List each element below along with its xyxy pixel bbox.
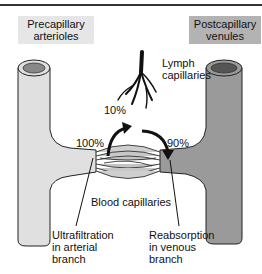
ultrafiltration-label: Ultrafiltration in arterial branch (52, 229, 114, 265)
capillary-diagram (0, 0, 262, 274)
blood-capillary-bed (96, 145, 160, 179)
outflow-percent-label: 90% (167, 137, 189, 149)
arteriole-vessel (18, 60, 96, 246)
ultrafiltration-line1: Ultrafiltration (52, 229, 114, 241)
reabsorption-line3: branch (149, 253, 214, 265)
ultrafiltration-line3: branch (52, 253, 114, 265)
lymph-label-line1: Lymph (162, 57, 211, 69)
lymph-label-line2: capillaries (162, 69, 211, 81)
ultrafiltration-line2: in arterial (52, 241, 114, 253)
inflow-percent-label: 100% (76, 137, 104, 149)
reabsorption-line1: Reabsorption (149, 229, 214, 241)
lymph-capillaries-label: Lymph capillaries (162, 57, 211, 81)
lymph-capillaries (118, 52, 156, 108)
reabsorption-label: Reabsorption in venous branch (149, 229, 214, 265)
blood-capillaries-label: Blood capillaries (91, 196, 171, 208)
lymph-percent-label: 10% (104, 104, 126, 116)
reabsorption-line2: in venous (149, 241, 214, 253)
